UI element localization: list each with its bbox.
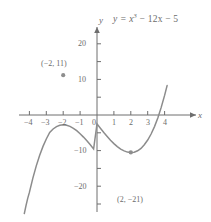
y-tick-label-20: 20 — [78, 40, 86, 48]
x-axis-name: x — [198, 111, 202, 120]
x-axis — [19, 112, 196, 118]
min-point-marker — [129, 150, 133, 154]
y-tick-label-neg10: −10 — [74, 147, 87, 155]
graph-figure: y = x3 − 12x − 5 y x 20 10 −10 −20 −4 −3… — [0, 0, 211, 222]
y-tick-label-10: 10 — [78, 76, 86, 84]
x-tick-label-neg3: −3 — [41, 119, 50, 127]
equation-lhs: y = x — [113, 14, 134, 24]
equation-label: y = x3 − 12x − 5 — [113, 13, 178, 25]
max-point-marker — [61, 73, 65, 77]
cubic-plot-svg — [0, 0, 211, 222]
max-point-label: (−2, 11) — [41, 60, 67, 68]
x-tick-label-neg1: −1 — [75, 119, 84, 127]
x-tick-label-neg4: −4 — [24, 119, 33, 127]
x-tick-label-4: 4 — [163, 119, 167, 127]
y-axis-name: y — [99, 16, 103, 25]
y-tick-label-neg20: −20 — [74, 183, 87, 191]
cubic-curve — [24, 86, 167, 214]
x-tick-label-neg2: −2 — [58, 119, 67, 127]
x-tick-label-0: 0 — [92, 119, 96, 127]
equation-rhs: − 12x − 5 — [137, 14, 178, 24]
x-tick-label-2: 2 — [129, 119, 133, 127]
x-tick-label-1: 1 — [112, 119, 116, 127]
min-point-label: (2, −21) — [117, 196, 143, 204]
x-tick-label-3: 3 — [146, 119, 150, 127]
